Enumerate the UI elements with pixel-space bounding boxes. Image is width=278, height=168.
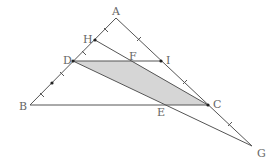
point-midpoint-bd (50, 81, 53, 84)
tick-mark (40, 93, 44, 97)
tick-mark (82, 51, 86, 55)
label-b: B (19, 100, 27, 113)
point-c (206, 103, 209, 106)
point-d (71, 59, 74, 62)
label-g: G (257, 147, 266, 160)
point-h (93, 38, 96, 41)
point-i (159, 59, 162, 62)
segment-dg (73, 61, 252, 146)
label-d: D (63, 54, 72, 67)
label-i: I (166, 54, 170, 67)
shaded-quadrilateral-dfce (73, 61, 208, 105)
geometry-diagram: A H D F I B E C G (0, 0, 278, 168)
label-f: F (129, 50, 137, 63)
label-a: A (111, 5, 121, 18)
label-h: H (83, 33, 93, 46)
label-e: E (157, 106, 165, 119)
label-c: C (213, 98, 221, 111)
